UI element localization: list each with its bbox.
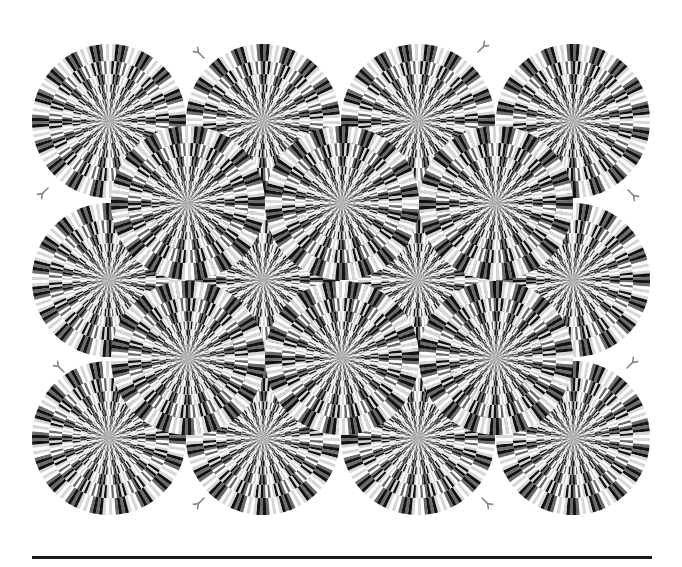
spiral-disc	[111, 281, 265, 435]
spiral-disc	[419, 126, 573, 280]
snake-tongue-icon	[476, 41, 489, 54]
spiral-disc	[265, 126, 419, 280]
spiral-disc	[265, 281, 419, 435]
snake-tongue-icon	[193, 496, 206, 509]
snake-tongue-icon	[37, 186, 50, 199]
rotating-snakes-illusion	[0, 0, 682, 567]
snake-tongue-icon	[53, 361, 66, 374]
snake-tongue-icon	[480, 496, 493, 509]
snake-tongue-icon	[193, 47, 206, 60]
spiral-disc	[419, 281, 573, 435]
horizontal-rule	[32, 556, 652, 559]
snake-tongue-icon	[625, 357, 638, 370]
snake-tongue-icon	[626, 188, 639, 201]
spiral-disc	[111, 126, 265, 280]
